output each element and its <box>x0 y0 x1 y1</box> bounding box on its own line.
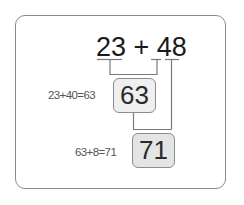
step-2-result-box: 71 <box>132 133 175 168</box>
step-2-result: 71 <box>139 135 168 166</box>
step-1-equation: 23+40=63 <box>48 89 95 101</box>
step-1-result-box: 63 <box>113 78 156 113</box>
addition-expression: 23 + 48 <box>96 33 187 61</box>
step-1-result: 63 <box>120 80 149 111</box>
step-2-equation: 63+8=71 <box>75 146 116 158</box>
